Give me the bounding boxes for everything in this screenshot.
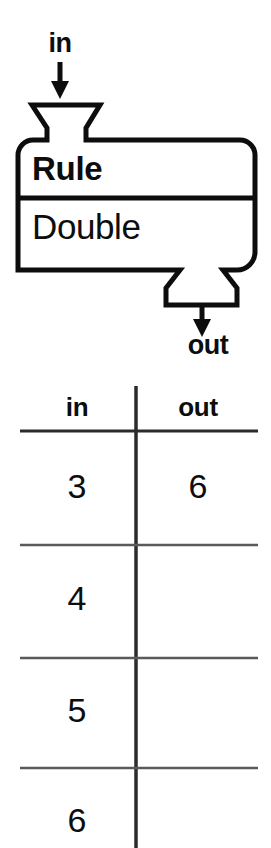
table-cell-out-0: 6 <box>140 466 256 506</box>
table-cell-in-3: 6 <box>20 800 134 840</box>
table-header-in: in <box>20 392 134 422</box>
table-cell-in-2: 5 <box>20 690 134 730</box>
table-cell-in-1: 4 <box>20 578 134 618</box>
table-cell-in-0: 3 <box>20 466 134 506</box>
table-header-out: out <box>140 392 256 422</box>
worksheet-canvas: in Rule Double out in out 3 6 4 5 <box>0 0 271 848</box>
